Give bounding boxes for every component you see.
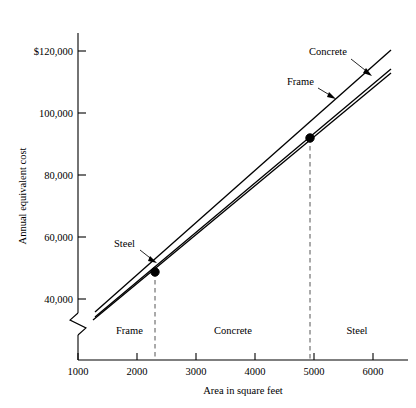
y-tick-label-120000: $120,000 <box>34 46 73 57</box>
region-label-steel: Steel <box>347 325 368 336</box>
y-tick-label-80000: 80,000 <box>44 170 73 181</box>
y-tick-label-60000: 60,000 <box>44 232 73 243</box>
x-tick-label-6000: 6000 <box>363 366 384 377</box>
annual-equivalent-cost-chart: $120,000 100,000 80,000 60,000 40,000 10… <box>0 0 416 408</box>
region-label-concrete: Concrete <box>214 325 252 336</box>
series-line-steel <box>93 73 391 320</box>
x-tick-label-5000: 5000 <box>304 366 325 377</box>
y-axis-break-icon <box>70 313 86 335</box>
arrowhead-frame-icon <box>327 92 336 99</box>
region-label-frame: Frame <box>116 325 143 336</box>
series-annotation-frame: Frame <box>287 76 314 87</box>
series-annotation-steel: Steel <box>114 238 135 249</box>
y-tick-label-40000: 40,000 <box>44 294 73 305</box>
x-tick-label-1000: 1000 <box>68 366 89 377</box>
x-tick-label-2000: 2000 <box>127 366 148 377</box>
series-annotation-concrete: Concrete <box>309 46 347 57</box>
x-tick-label-4000: 4000 <box>245 366 266 377</box>
breakeven-marker-concrete-steel <box>306 134 314 142</box>
breakeven-marker-frame-concrete <box>151 268 159 276</box>
y-tick-label-100000: 100,000 <box>39 108 73 119</box>
y-axis-title: Annual equivalent cost <box>17 148 28 245</box>
x-axis-title: Area in square feet <box>203 385 283 396</box>
x-tick-label-3000: 3000 <box>186 366 207 377</box>
series-line-concrete <box>95 50 391 312</box>
series-line-frame <box>95 69 391 317</box>
chart-page: $120,000 100,000 80,000 60,000 40,000 10… <box>0 0 416 408</box>
